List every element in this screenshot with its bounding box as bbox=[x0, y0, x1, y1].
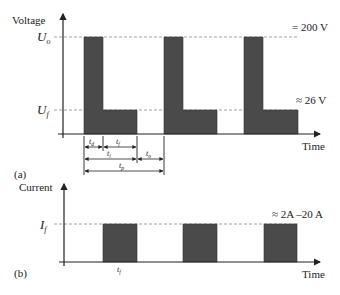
t-p-label: tp bbox=[119, 161, 124, 171]
voltage-pulse-3 bbox=[244, 37, 298, 134]
current-panel: Current If ≈ 2A –20 A tf Time (b) bbox=[14, 181, 325, 280]
current-pulse-2 bbox=[183, 224, 217, 262]
current-t-f-label: tf bbox=[117, 265, 122, 275]
u-o-label: Uo bbox=[37, 29, 50, 46]
u-f-value: ≈ 26 V bbox=[296, 94, 326, 106]
current-time-label: Time bbox=[302, 268, 325, 280]
voltage-axis-label: Voltage bbox=[12, 14, 46, 26]
t-i-label: ti bbox=[107, 149, 111, 159]
current-pulse-3 bbox=[264, 224, 297, 262]
t-d-label: td bbox=[89, 137, 94, 147]
pulse-waveform-diagram: Voltage Uo Uf = 200 V ≈ 26 V Time (a) td… bbox=[0, 0, 340, 295]
voltage-time-label: Time bbox=[302, 140, 325, 152]
voltage-pulse-2 bbox=[164, 37, 217, 134]
panel-a-tag: (a) bbox=[14, 168, 27, 181]
t-f-label: tf bbox=[116, 137, 121, 147]
current-pulse-1 bbox=[103, 224, 137, 262]
u-f-label: Uf bbox=[37, 102, 50, 119]
u-o-value: = 200 V bbox=[292, 21, 328, 33]
current-axis-label: Current bbox=[19, 181, 53, 193]
voltage-panel: Voltage Uo Uf = 200 V ≈ 26 V Time (a) td… bbox=[12, 14, 328, 181]
i-f-label: If bbox=[39, 217, 48, 234]
i-f-value: ≈ 2A –20 A bbox=[272, 208, 323, 220]
panel-b-tag: (b) bbox=[14, 267, 27, 280]
t-o-label: to bbox=[146, 149, 151, 159]
voltage-pulse-1 bbox=[84, 37, 137, 134]
